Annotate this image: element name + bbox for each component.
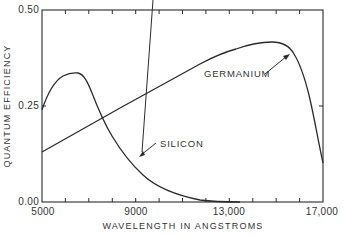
silicon-arrow <box>142 0 153 152</box>
plot-frame <box>42 10 323 202</box>
x-axis-ticks <box>65 10 299 202</box>
x-tick-label-5000: 5000 <box>31 206 55 217</box>
x-tick-label-13000: 13,000 <box>213 206 246 217</box>
y-axis-title: QUANTUM EFFICIENCY <box>2 44 12 167</box>
silicon-curve <box>42 73 240 202</box>
x-tick-label-17000: 17,000 <box>306 206 339 217</box>
y-tick-label-mid: 0.25 <box>18 100 39 111</box>
x-axis-title: WAVELENGTH IN ANGSTROMS <box>102 221 263 231</box>
germanium-label: GERMANIUM <box>204 68 270 79</box>
y-tick-label-top: 0.50 <box>18 4 39 15</box>
germanium-arrowhead-icon <box>283 54 290 60</box>
quantum-efficiency-chart: 0.50 0.25 0.00 5000 9000 13,000 17,000 W… <box>0 0 343 236</box>
x-tick-label-9000: 9000 <box>124 206 148 217</box>
silicon-label: SILICON <box>160 138 204 149</box>
